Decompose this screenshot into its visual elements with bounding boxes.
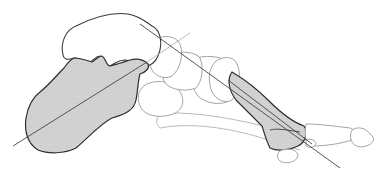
foot-bone-diagram <box>0 0 379 178</box>
diagram-canvas <box>0 0 379 178</box>
first-metatarsal <box>229 72 306 150</box>
sesamoid <box>278 149 299 163</box>
calcaneus <box>26 56 149 153</box>
distal-phalanx <box>351 128 374 147</box>
